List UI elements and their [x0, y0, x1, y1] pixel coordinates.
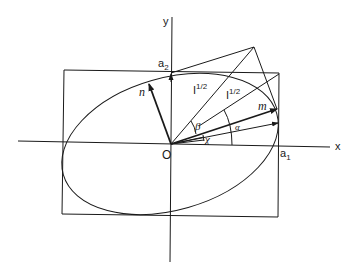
chi-label: χ: [204, 133, 211, 145]
m-label: m: [258, 99, 267, 113]
vector-n: [149, 84, 171, 144]
alpha-label: α: [235, 122, 240, 132]
a1-label: a1: [280, 147, 291, 162]
x-axis-label: x: [335, 140, 341, 152]
n-label: n: [139, 85, 145, 99]
ellipse-diagram: y x O a2 a1 n m I1/2 I1/2 β α χ: [0, 0, 355, 278]
beta-label: β: [194, 120, 201, 132]
origin-label: O: [162, 148, 171, 162]
alpha-arc: [224, 110, 232, 145]
a2-label: a2: [158, 57, 169, 72]
I-half-label-2: I1/2: [226, 87, 241, 101]
I-half-label-1: I1/2: [193, 82, 208, 96]
construction-lines: [171, 47, 279, 144]
y-axis-label: y: [163, 15, 169, 27]
